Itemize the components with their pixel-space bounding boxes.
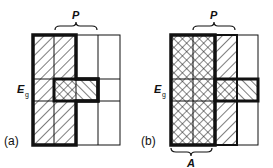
hatch-region-diagonal [215, 101, 237, 145]
brace-label-p: P [210, 9, 218, 21]
panel-b: P A E g (b) [141, 9, 258, 168]
brace-label-p: P [72, 9, 80, 21]
hatch-region-backslash [237, 79, 258, 101]
diagram-canvas: P E g (a) P A E g (b) [0, 0, 273, 168]
hatch-region-backslash [76, 79, 98, 101]
brace-bottom [171, 148, 212, 156]
brace-label-a: A [186, 157, 195, 168]
panel-a: P E g (a) [4, 9, 120, 148]
hatch-region-diagonal [215, 35, 237, 79]
panel-label-a: (a) [4, 134, 19, 148]
hatch-region-cross-small [215, 79, 237, 101]
hatch-region-cross [54, 79, 76, 101]
brace-top [55, 22, 97, 30]
brace-top [193, 22, 235, 30]
eg-label: E [17, 83, 25, 95]
panel-label-b: (b) [141, 134, 156, 148]
eg-subscript: g [162, 91, 166, 99]
eg-subscript: g [25, 91, 29, 99]
eg-label: E [154, 83, 162, 95]
